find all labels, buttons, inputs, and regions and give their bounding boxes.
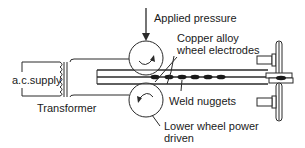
side-view-wheels (257, 41, 293, 121)
label-transformer: Transformer (37, 102, 97, 114)
label-electrodes-line2: wheel electrodes (177, 44, 260, 56)
label-applied-pressure: Applied pressure (154, 12, 237, 24)
transformer-icon (60, 59, 129, 97)
label-electrodes-line1: Copper alloy (177, 32, 239, 44)
applied-pressure-arrow (142, 8, 150, 41)
label-weld-nuggets: Weld nuggets (169, 95, 236, 107)
label-lower-wheel-line2: driven (164, 132, 194, 144)
label-ac-supply: a.c.supply (12, 74, 62, 86)
lower-wheel-electrode (129, 83, 163, 117)
label-lower-wheel-line1: Lower wheel power (164, 120, 259, 132)
